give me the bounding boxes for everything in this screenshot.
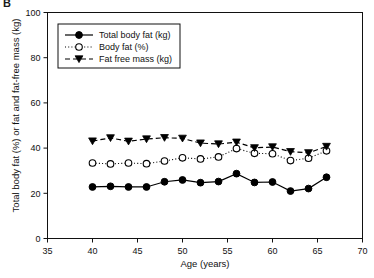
legend-label: Fat free mass (kg)	[99, 54, 172, 64]
data-point	[269, 179, 276, 186]
x-tick-label: 50	[177, 246, 187, 256]
x-tick-label: 40	[87, 246, 97, 256]
data-point	[251, 179, 258, 186]
data-point	[161, 158, 168, 165]
data-point	[287, 188, 294, 195]
data-point	[143, 160, 150, 167]
data-point	[161, 178, 168, 185]
data-point	[197, 156, 204, 163]
data-point	[251, 145, 259, 152]
y-axis-label: Total body fat (%) or fat and fat-free m…	[10, 5, 21, 227]
x-tick-label: 35	[42, 246, 52, 256]
y-tick-label: 0	[35, 234, 40, 244]
data-point	[143, 184, 150, 191]
data-point	[287, 157, 294, 164]
figure-panel: B Total body fat (%) or fat and fat-free…	[0, 0, 374, 278]
data-point	[107, 183, 114, 190]
chart-legend: Total body fat (kg)Body fat (%)Fat free …	[58, 24, 180, 68]
data-point	[107, 161, 114, 168]
series-2	[89, 135, 331, 157]
data-point	[215, 154, 222, 161]
data-point	[233, 170, 240, 177]
y-tick-label: 80	[30, 53, 40, 63]
data-point	[215, 178, 222, 185]
data-point	[233, 139, 241, 146]
data-point	[89, 184, 96, 191]
legend-marker	[76, 44, 83, 51]
x-tick-label: 60	[267, 246, 277, 256]
data-point	[179, 155, 186, 162]
x-tick-label: 70	[357, 246, 367, 256]
chart-plot-area: 020406080100 3540455055606570 Total body…	[0, 0, 374, 278]
data-point	[125, 160, 132, 167]
x-tick-label: 65	[312, 246, 322, 256]
y-tick-label: 40	[30, 143, 40, 153]
data-point	[305, 185, 312, 192]
data-point	[125, 184, 132, 191]
legend-label: Body fat (%)	[99, 42, 149, 52]
x-tick-label: 55	[222, 246, 232, 256]
x-axis-label: Age (years)	[47, 258, 363, 269]
data-point	[89, 160, 96, 167]
legend-label: Total body fat (kg)	[99, 30, 171, 40]
data-point	[269, 150, 276, 157]
series-0	[89, 170, 330, 194]
y-tick-label: 60	[30, 98, 40, 108]
x-axis-ticks: 3540455055606570	[42, 239, 367, 256]
legend-marker	[76, 32, 83, 39]
data-point	[125, 138, 133, 145]
data-series-layer	[89, 135, 331, 195]
x-tick-label: 45	[132, 246, 142, 256]
y-tick-label: 100	[25, 8, 40, 18]
y-tick-label: 20	[30, 189, 40, 199]
data-point	[197, 179, 204, 186]
data-point	[323, 174, 330, 181]
data-point	[179, 177, 186, 184]
y-axis-ticks: 020406080100	[25, 8, 47, 244]
data-point	[89, 138, 97, 145]
